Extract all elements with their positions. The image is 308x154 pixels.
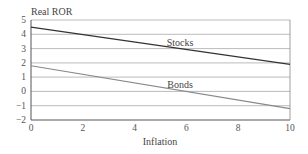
- x-tick-labels: 0 2 4 6 8 10: [29, 123, 295, 133]
- svg-text:2: 2: [80, 123, 85, 133]
- svg-text:10: 10: [285, 123, 295, 133]
- y-tick-labels: 5 4 3 2 1 0 −1 −2: [16, 15, 26, 125]
- series-lines: [31, 27, 290, 109]
- svg-text:5: 5: [21, 15, 26, 25]
- stocks-label: Stocks: [167, 37, 194, 48]
- bonds-line: [31, 66, 290, 109]
- chart: 5 4 3 2 1 0 −1 −2 0 2 4 6 8 10 Real ROR …: [0, 0, 308, 154]
- svg-text:0: 0: [21, 86, 26, 96]
- svg-text:2: 2: [21, 58, 26, 68]
- svg-text:−2: −2: [16, 115, 26, 125]
- bonds-label: Bonds: [167, 79, 193, 90]
- x-axis-label: Inflation: [143, 136, 177, 147]
- svg-text:8: 8: [236, 123, 241, 133]
- svg-text:1: 1: [21, 72, 26, 82]
- svg-text:−1: −1: [16, 101, 26, 111]
- svg-text:0: 0: [29, 123, 34, 133]
- stocks-line: [31, 27, 290, 64]
- svg-text:4: 4: [21, 29, 26, 39]
- svg-text:4: 4: [132, 123, 137, 133]
- svg-text:6: 6: [184, 123, 189, 133]
- axes: [31, 20, 290, 120]
- svg-text:3: 3: [21, 44, 26, 54]
- y-axis-label: Real ROR: [31, 6, 73, 17]
